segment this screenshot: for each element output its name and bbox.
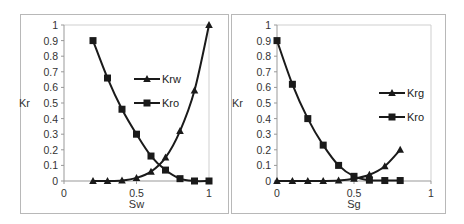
x-tick-label: 1 bbox=[428, 187, 434, 199]
square-marker bbox=[162, 167, 169, 174]
legend-label: Krw bbox=[162, 73, 181, 85]
y-tick-label: 0.9 bbox=[43, 35, 58, 47]
kro-curve bbox=[277, 41, 400, 181]
triangle-marker bbox=[396, 146, 404, 153]
chart-panel-sw: 00.10.20.30.40.50.60.70.80.9100.51SwKrKr… bbox=[20, 14, 229, 214]
legend-item-kro: Kro bbox=[379, 111, 424, 123]
square-marker bbox=[206, 178, 213, 185]
kro-curve bbox=[93, 41, 209, 182]
y-tick-label: 0.5 bbox=[43, 97, 58, 109]
y-tick-label: 0.2 bbox=[256, 144, 271, 156]
y-tick-label: 0.3 bbox=[256, 128, 271, 140]
square-marker bbox=[133, 131, 140, 138]
x-tick-label: 1 bbox=[206, 187, 212, 199]
series-kro bbox=[90, 37, 213, 184]
y-tick-label: 0.7 bbox=[256, 66, 271, 78]
x-axis-title: Sw bbox=[129, 198, 144, 210]
legend-item-krw: Krw bbox=[134, 73, 181, 85]
square-marker bbox=[90, 37, 97, 44]
legend-label: Krg bbox=[407, 87, 424, 99]
series-kro bbox=[274, 37, 404, 184]
square-marker bbox=[397, 177, 404, 184]
y-tick-label: 0.8 bbox=[256, 50, 271, 62]
square-marker bbox=[119, 106, 126, 113]
y-tick-label: 0.4 bbox=[256, 113, 271, 125]
chart-panel-sg: 00.10.20.30.40.50.60.70.80.9100.51SgKrKr… bbox=[231, 14, 446, 214]
y-tick-label: 0.1 bbox=[43, 159, 58, 171]
y-tick-label: 0.6 bbox=[256, 81, 271, 93]
y-tick-label: 0.7 bbox=[43, 66, 58, 78]
y-tick-label: 0.1 bbox=[256, 159, 271, 171]
y-tick-label: 0.3 bbox=[43, 128, 58, 140]
square-marker bbox=[191, 178, 198, 185]
legend-label: Kro bbox=[407, 111, 424, 123]
triangle-marker bbox=[176, 127, 184, 134]
y-tick-label: 0 bbox=[52, 175, 58, 187]
square-marker bbox=[144, 100, 151, 107]
square-marker bbox=[274, 37, 281, 44]
triangle-marker bbox=[191, 87, 199, 94]
y-tick-label: 0.5 bbox=[256, 97, 271, 109]
y-axis-title: Kr bbox=[19, 97, 30, 109]
square-marker bbox=[351, 173, 358, 180]
y-tick-label: 0.6 bbox=[43, 81, 58, 93]
legend-item-krg: Krg bbox=[379, 87, 424, 99]
y-tick-label: 0.9 bbox=[256, 35, 271, 47]
square-marker bbox=[304, 115, 311, 122]
chart-sw-relative-permeability: 00.10.20.30.40.50.60.70.80.9100.51SwKrKr… bbox=[21, 15, 228, 213]
y-tick-label: 1 bbox=[52, 19, 58, 31]
legend-item-kro: Kro bbox=[134, 97, 179, 109]
square-marker bbox=[335, 162, 342, 169]
y-tick-label: 0.8 bbox=[43, 50, 58, 62]
square-marker bbox=[366, 177, 373, 184]
y-tick-label: 1 bbox=[265, 19, 271, 31]
square-marker bbox=[320, 142, 327, 149]
square-marker bbox=[148, 153, 155, 160]
x-tick-label: 0 bbox=[61, 187, 67, 199]
square-marker bbox=[177, 175, 184, 182]
y-tick-label: 0 bbox=[265, 175, 271, 187]
y-tick-label: 0.2 bbox=[43, 144, 58, 156]
square-marker bbox=[389, 114, 396, 121]
x-axis-title: Sg bbox=[347, 198, 360, 210]
x-tick-label: 0 bbox=[274, 187, 280, 199]
legend-label: Kro bbox=[162, 97, 179, 109]
y-tick-label: 0.4 bbox=[43, 113, 58, 125]
square-marker bbox=[289, 81, 296, 88]
y-axis-title: Kr bbox=[232, 97, 243, 109]
chart-sg-relative-permeability: 00.10.20.30.40.50.60.70.80.9100.51SgKrKr… bbox=[232, 15, 445, 213]
square-marker bbox=[104, 75, 111, 82]
square-marker bbox=[381, 177, 388, 184]
